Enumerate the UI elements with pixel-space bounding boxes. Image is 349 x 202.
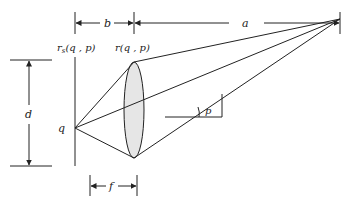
f-label: f — [108, 180, 115, 193]
lens — [124, 62, 144, 158]
lens-geometry-diagram: b a rs(q , p) r(q , p) d q p — [0, 0, 349, 202]
top-dimension: b a — [75, 12, 340, 34]
ray-lens-top-apex — [134, 19, 340, 62]
p-label: p — [205, 105, 212, 116]
q-label: q — [58, 122, 65, 135]
r-label: r(q , p) — [115, 42, 150, 53]
rs-label: rs(q , p) — [57, 42, 96, 55]
b-label: b — [104, 17, 111, 30]
p-angle: p — [165, 94, 222, 117]
d-dimension: d — [10, 60, 52, 166]
d-label: d — [25, 108, 32, 121]
f-dimension: f — [90, 175, 137, 196]
ray-lens-bottom-apex — [134, 19, 340, 158]
a-label: a — [242, 17, 249, 30]
